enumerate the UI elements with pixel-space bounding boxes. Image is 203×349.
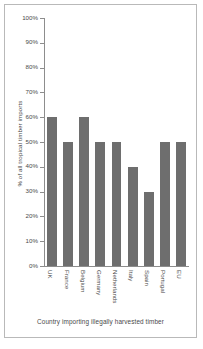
x-axis-title: Country importing illegally harvested ti…	[4, 318, 197, 325]
y-axis-tick	[40, 192, 44, 193]
y-axis-tick-label: 30%	[26, 187, 38, 194]
bar	[176, 142, 186, 266]
plot-area: 100%90%80%70%60%50%40%30%20%10%0% UKFran…	[44, 18, 189, 266]
y-axis-line	[44, 18, 45, 266]
y-axis-tick	[40, 92, 44, 93]
x-axis-tick-label: Spain	[144, 270, 151, 286]
bar	[95, 142, 105, 266]
x-axis-tick-label: Italy	[128, 270, 135, 281]
bar	[63, 142, 73, 266]
y-axis-tick	[40, 68, 44, 69]
x-axis-tick-label: France	[64, 270, 71, 289]
bar	[112, 142, 122, 266]
y-axis-tick	[40, 266, 44, 267]
y-axis-tick	[40, 167, 44, 168]
y-axis-tick-label: 40%	[26, 162, 38, 169]
y-axis-tick-label: 100%	[22, 14, 38, 21]
y-axis-tick-label: 60%	[26, 113, 38, 120]
y-axis-tick-label: 90%	[26, 38, 38, 45]
bar	[47, 117, 57, 266]
y-axis-tick	[40, 43, 44, 44]
y-axis-tick	[40, 18, 44, 19]
x-axis-line	[44, 266, 189, 267]
bar	[144, 192, 154, 266]
y-axis-tick-label: 70%	[26, 88, 38, 95]
x-axis-tick-label: Germany	[96, 270, 103, 295]
y-axis-title: % of all tropical timber imports	[16, 84, 23, 204]
y-axis-tick-label: 0%	[29, 262, 38, 269]
x-axis-tick-label: Belgium	[80, 270, 87, 292]
y-axis-tick	[40, 117, 44, 118]
x-axis-tick-label: UK	[47, 270, 54, 279]
bar	[160, 142, 170, 266]
bar	[79, 117, 89, 266]
y-axis-tick-label: 10%	[26, 237, 38, 244]
bar	[128, 167, 138, 266]
y-axis-tick	[40, 241, 44, 242]
x-axis-tick-label: Netherlands	[112, 270, 119, 303]
y-axis-tick	[40, 142, 44, 143]
y-axis-tick-label: 20%	[26, 212, 38, 219]
y-axis-tick-label: 50%	[26, 138, 38, 145]
y-axis-tick	[40, 216, 44, 217]
y-axis-tick-label: 80%	[26, 63, 38, 70]
chart-figure: % of all tropical timber imports 100%90%…	[0, 0, 203, 349]
x-axis-tick-label: EU	[176, 270, 183, 279]
x-axis-tick-label: Portugal	[160, 270, 167, 293]
